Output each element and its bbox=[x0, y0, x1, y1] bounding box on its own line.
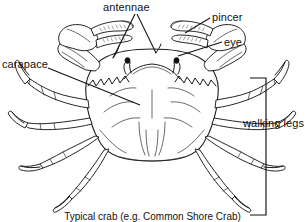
label-walking-legs: walking legs bbox=[243, 117, 304, 129]
label-eye: eye bbox=[224, 36, 242, 48]
walking-leg-left-2 bbox=[8, 111, 92, 129]
crab-anatomy-diagram: antennae pincer eye carapace walking leg… bbox=[0, 0, 305, 222]
walking-leg-right-3 bbox=[205, 136, 285, 171]
label-carapace: carapace bbox=[2, 58, 48, 70]
walking-leg-left-3 bbox=[19, 136, 99, 171]
carapace-shape bbox=[86, 49, 219, 161]
bracket-walking-legs bbox=[250, 78, 266, 215]
label-antennae: antennae bbox=[103, 1, 150, 13]
walking-leg-right-1 bbox=[215, 60, 289, 108]
label-pincer: pincer bbox=[212, 11, 243, 23]
figure-caption: Typical crab (e.g. Common Shore Crab) bbox=[0, 211, 305, 222]
crab-illustration bbox=[0, 0, 305, 222]
leader-antennae-right bbox=[137, 14, 156, 53]
